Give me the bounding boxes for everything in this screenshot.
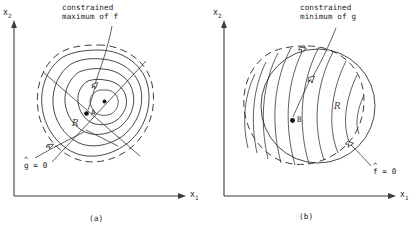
panel-b-contours-g [245,46,364,165]
panel-b-x-axis-arrowhead [388,193,396,199]
panel-b-x-axis-subscript: 1 [405,195,409,201]
f-maximum-center-dot [103,100,107,104]
panel-a-region-label: R [72,119,79,128]
point-A-marker [84,111,89,116]
panel-b-region-label: R [334,102,341,111]
panel-a-x-axis-arrowhead [178,193,186,199]
panel-b-region-outline [244,46,364,164]
g-contour-7 [317,52,333,160]
panel-a-callout-text: constrainedmaximum of f [62,3,118,21]
panel-a-callout-line1: constrained [62,3,113,12]
f-contour-2 [78,79,127,124]
ghat-caret: ^ [24,156,28,163]
g-contour-2 [253,62,266,153]
panel-b-callout-line1: constrained [300,3,351,12]
panel-b-fhat-boundary [261,49,375,163]
fhat-equals: = 0 [378,167,397,176]
panel-a-caption: (a) [89,214,103,223]
panel-b-fhat-leader-line [350,144,371,166]
panel-b-y-axis-label: x2 [213,8,221,21]
fhat-caret: ^ [373,162,377,169]
f-contour-5 [42,50,149,156]
panel-a-y-axis-arrowhead [11,20,17,28]
panel-b-point-B [290,118,295,123]
panel-a-y-axis-label: x2 [3,8,11,21]
panel-a-contours-f [42,50,149,156]
panel-a-callout-line2: maximum of f [62,12,118,21]
g-contour-3 [263,53,278,159]
panel-b-region-boundary [244,46,364,164]
panel-a-point-A [84,111,89,116]
panel-b-axes [221,20,396,199]
panel-b-caption: (b) [299,212,313,221]
panel-b-x-axis-label: x1 [400,190,408,203]
panel-a-x-axis-label: x1 [190,190,198,203]
panel-b-callout-leader [293,28,336,117]
panel-a-graphics [11,20,186,199]
panel-a-y-axis-subscript: 2 [8,13,12,19]
figure-canvas [0,0,420,232]
g-contour-6 [302,47,319,164]
panel-a-callout-leader [88,26,112,110]
panel-a-axes [11,20,186,199]
ghat-zero-curve [37,45,153,162]
figure-root: constrainedmaximum of f x2 x1 ^g = 0 R A… [0,0,420,232]
f-contour-4 [53,59,142,146]
panel-b-constraint-label: ^f = 0 [373,167,396,176]
panel-a-leader-line [95,26,112,84]
ghat-equals: = 0 [29,161,48,170]
ghat-symbol-wrap: ^g [24,161,29,170]
panel-b-callout-line2: minimum of g [300,12,356,21]
panel-a-point-label: A [91,108,96,117]
panel-a-constraint-label: ^g = 0 [24,161,47,170]
panel-a-point-A-leader [88,86,95,110]
panel-b-graphics [221,20,396,199]
panel-b-y-axis-subscript: 2 [218,13,222,19]
fhat-symbol-wrap: ^f [373,167,378,176]
panel-a-x-axis-subscript: 1 [195,195,199,201]
fhat-zero-circle [261,49,375,163]
panel-b-point-B-leader [293,80,310,117]
panel-a-constraint-boundary [37,45,153,162]
point-B-marker [290,118,295,123]
panel-b-callout-text: constrainedminimum of g [300,3,356,21]
panel-b-point-label: B [297,115,302,124]
panel-b-y-axis-arrowhead [221,20,227,28]
